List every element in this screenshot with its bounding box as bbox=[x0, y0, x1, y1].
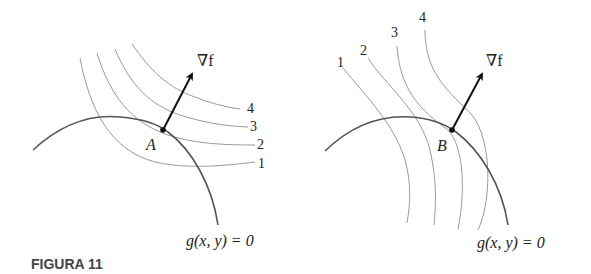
level-label-4-left: 4 bbox=[247, 101, 254, 116]
point-b-label: B bbox=[437, 137, 447, 154]
level-curve-4 bbox=[132, 44, 240, 109]
level-label-3-right: 3 bbox=[391, 25, 398, 40]
constraint-curve-right bbox=[325, 117, 508, 225]
figure-canvas: ∇f A 1 2 3 4 g(x, y) = 0 ∇f B 1 2 3 4 g(… bbox=[0, 0, 591, 274]
level-label-1-left: 1 bbox=[258, 156, 265, 171]
level-label-2-right: 2 bbox=[360, 43, 367, 58]
gradient-label-left: ∇f bbox=[197, 52, 214, 69]
level-curves-left bbox=[80, 44, 255, 166]
point-a bbox=[160, 127, 166, 133]
level-curves-right bbox=[343, 30, 488, 230]
level-curve-1 bbox=[80, 58, 255, 166]
level-curve-4 bbox=[425, 30, 488, 230]
constraint-label-left: g(x, y) = 0 bbox=[186, 232, 254, 250]
level-label-4-right: 4 bbox=[419, 10, 426, 25]
figure-caption: FIGURA 11 bbox=[31, 256, 103, 272]
constraint-curve-left bbox=[33, 117, 218, 225]
level-label-2-left: 2 bbox=[257, 137, 264, 152]
level-label-1-right: 1 bbox=[337, 55, 344, 70]
point-a-label: A bbox=[145, 136, 156, 153]
constraint-label-right: g(x, y) = 0 bbox=[477, 234, 545, 252]
level-curve-1 bbox=[343, 68, 410, 223]
level-curve-3 bbox=[115, 49, 248, 127]
level-label-3-left: 3 bbox=[250, 119, 257, 134]
left-panel: ∇f A 1 2 3 4 g(x, y) = 0 bbox=[33, 44, 265, 250]
level-curve-2 bbox=[97, 53, 255, 145]
gradient-label-right: ∇f bbox=[486, 52, 503, 69]
right-panel: ∇f B 1 2 3 4 g(x, y) = 0 bbox=[325, 10, 545, 252]
gradient-arrow-right bbox=[452, 74, 482, 130]
point-b bbox=[449, 127, 455, 133]
level-curve-3 bbox=[397, 46, 462, 229]
level-curve-2 bbox=[368, 58, 435, 225]
